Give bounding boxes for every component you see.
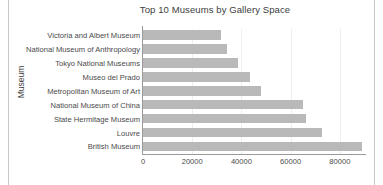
y-tick-label: Metropolitan Museum of Art <box>5 87 140 96</box>
y-tick-label: National Museum of Anthropology <box>5 45 140 54</box>
bar <box>143 114 306 124</box>
gridline-80000 <box>340 29 341 154</box>
bar <box>143 142 362 152</box>
bar <box>143 72 250 82</box>
bar <box>143 86 261 96</box>
y-tick-label: Victoria and Albert Museum <box>5 31 140 40</box>
x-axis-tick-labels: 020000400006000080000 <box>143 157 366 171</box>
y-axis-tick-labels: Victoria and Albert MuseumNational Museu… <box>3 29 140 154</box>
bar <box>143 58 238 68</box>
bar <box>143 44 227 54</box>
y-tick-label: British Museum <box>5 142 140 151</box>
x-tick-label: 20000 <box>182 157 203 166</box>
y-tick-label: Tokyo National Museums <box>5 59 140 68</box>
panel-right-border <box>374 0 375 185</box>
y-tick-label: National Museum of China <box>5 101 140 110</box>
bar <box>143 100 303 110</box>
x-tick-label: 40000 <box>231 157 252 166</box>
chart-title: Top 10 Museums by Gallery Space <box>60 4 370 15</box>
x-axis-line <box>142 154 366 155</box>
y-tick-label: State Hermitage Museum <box>5 115 140 124</box>
y-tick-label: Louvre <box>5 129 140 138</box>
x-tick-label: 80000 <box>329 157 350 166</box>
chart-figure-panel: Top 10 Museums by Gallery Space Museum V… <box>0 0 383 185</box>
x-tick-label: 0 <box>141 157 145 166</box>
y-tick-label: Museo del Prado <box>5 73 140 82</box>
x-tick-label: 60000 <box>280 157 301 166</box>
plot-area <box>143 29 366 154</box>
bar <box>143 128 322 138</box>
bar <box>143 30 221 40</box>
y-axis-line <box>142 26 143 154</box>
